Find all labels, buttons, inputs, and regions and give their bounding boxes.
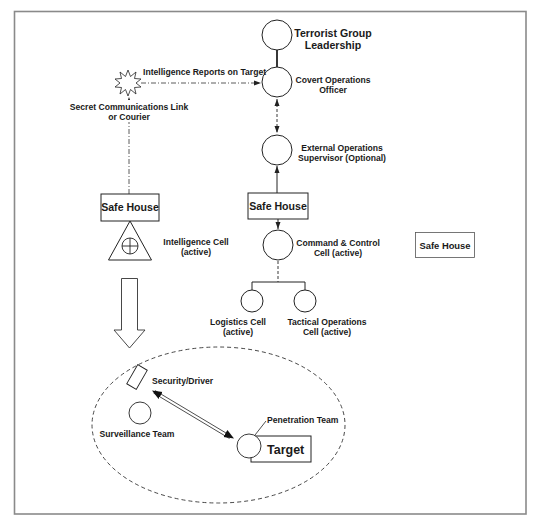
penetration-circle — [237, 434, 261, 458]
surveillance-label: Surveillance Team — [100, 429, 175, 439]
target-label: Target — [267, 443, 305, 457]
safe-house-right-label: Safe House — [419, 240, 470, 251]
intel-reports-label: Intelligence Reports on Target — [143, 67, 266, 77]
covert-officer-label-2: Officer — [319, 85, 347, 95]
node-safe-house-right: Safe House — [416, 233, 475, 258]
secret-comms-label-1: Secret Communications Link — [70, 102, 189, 112]
ext-supervisor-label-1: External Operations — [301, 143, 383, 153]
leadership-label-2: Leadership — [305, 39, 362, 51]
ext-supervisor-label-2: Supervisor (Optional) — [298, 153, 386, 163]
intel-cell-label-2: (active) — [181, 247, 211, 257]
logistics-label-2: (active) — [223, 327, 253, 337]
command-control-label-2: Cell (active) — [314, 248, 362, 258]
leadership-label-1: Terrorist Group — [294, 27, 372, 39]
intel-cell-label-1: Intelligence Cell — [163, 237, 228, 247]
penetration-label: Penetration Team — [267, 415, 339, 425]
node-safe-house-center: Safe House — [248, 193, 308, 219]
cell-structure-diagram: Terrorist Group Leadership Covert Operat… — [0, 0, 537, 524]
secret-comms-label-2: or Courier — [108, 112, 150, 122]
tactical-label-1: Tactical Operations — [287, 317, 366, 327]
node-safe-house-left: Safe House — [101, 194, 159, 221]
logistics-label-1: Logistics Cell — [210, 317, 266, 327]
command-control-label-1: Command & Control — [296, 238, 380, 248]
safe-house-left-label: Safe House — [101, 201, 159, 213]
safe-house-center-label: Safe House — [249, 200, 307, 212]
covert-officer-label-1: Covert Operations — [296, 75, 371, 85]
security-driver-label: Security/Driver — [152, 376, 214, 386]
node-target: Target — [237, 434, 311, 462]
tactical-label-2: Cell (active) — [303, 327, 351, 337]
